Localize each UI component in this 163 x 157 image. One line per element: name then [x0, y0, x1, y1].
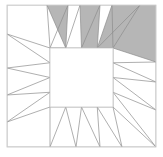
- mask-bottom: [0, 148, 163, 157]
- sunburst-star-diagram: [0, 0, 163, 157]
- mask-left: [0, 0, 6, 157]
- inner-square: [50, 48, 113, 107]
- mask-right: [157, 0, 163, 157]
- figure-container: [0, 0, 163, 157]
- mask-top: [0, 0, 163, 5]
